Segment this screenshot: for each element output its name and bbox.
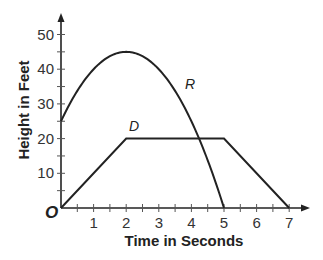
y-axis-arrow-icon — [58, 13, 65, 22]
origin-label: O — [45, 203, 58, 222]
x-tick-label: 4 — [187, 214, 195, 231]
x-axis-arrow-icon — [301, 205, 310, 212]
x-tick-label: 2 — [122, 214, 130, 231]
y-tick-label: 50 — [37, 26, 54, 43]
x-tick-label: 3 — [155, 214, 163, 231]
series-D-label: D — [129, 118, 139, 134]
x-axis-title: Time in Seconds — [125, 232, 244, 249]
y-tick-label: 20 — [37, 130, 54, 147]
series-R-curve — [61, 52, 224, 208]
x-tick-label: 7 — [285, 214, 293, 231]
y-tick-label: 30 — [37, 95, 54, 112]
y-axis-title: Height in Feet — [15, 60, 32, 159]
x-tick-label: 5 — [220, 214, 228, 231]
x-tick-label: 1 — [89, 214, 97, 231]
x-axis: 1234567 — [61, 204, 310, 231]
x-tick-label: 6 — [252, 214, 260, 231]
y-tick-label: 10 — [37, 164, 54, 181]
y-tick-label: 40 — [37, 60, 54, 77]
series-D-line — [61, 139, 289, 208]
series-R-label: R — [185, 76, 195, 92]
y-axis: 1020304050 — [37, 13, 65, 208]
height-time-chart: 1020304050 1234567 R D O Time in Seconds… — [0, 0, 323, 260]
